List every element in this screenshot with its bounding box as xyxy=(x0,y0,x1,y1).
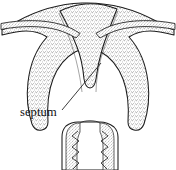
septum-label: septum xyxy=(20,105,57,119)
diagram-canvas: septum xyxy=(0,0,176,170)
uterus-diagram-figure: septum xyxy=(0,0,176,170)
septum-leader-line xyxy=(62,63,101,110)
cervix-group xyxy=(62,121,118,170)
